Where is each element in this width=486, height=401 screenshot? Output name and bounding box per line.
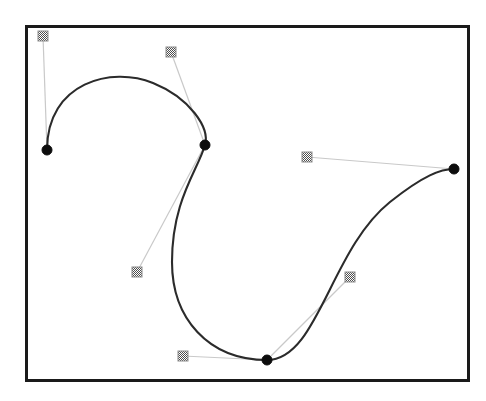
handle-line-3 [137,145,205,272]
control-1-handle[interactable]: Control 1 [38,31,48,41]
bezier-editor-window: Bezier spline with anchor points and con… [0,0,486,401]
anchor-2-point[interactable]: Anchor 2 [200,140,210,150]
anchor-1-point[interactable]: Anchor 1 [42,145,52,155]
anchor-points-group[interactable]: Anchor 1Anchor 2Anchor 3Anchor 4 [42,140,459,365]
control-points-group[interactable]: Control 1Control 2Control 3Control 4Cont… [38,31,355,361]
handle-lines-group [43,36,454,360]
control-4-handle[interactable]: Control 4 [178,351,188,361]
handle-line-2 [171,52,205,145]
anchor-3-point[interactable]: Anchor 3 [262,355,272,365]
handle-line-6 [307,157,454,169]
bezier-curve-path[interactable] [47,77,454,360]
control-3-handle[interactable]: Control 3 [132,267,142,277]
handle-line-1 [43,36,47,150]
control-2-handle[interactable]: Control 2 [166,47,176,57]
control-5-handle[interactable]: Control 5 [345,272,355,282]
curve-group[interactable] [47,77,454,360]
bezier-vector-layer[interactable]: Control 1Control 2Control 3Control 4Cont… [0,0,486,401]
anchor-4-point[interactable]: Anchor 4 [449,164,459,174]
control-6-handle[interactable]: Control 6 [302,152,312,162]
handle-line-5 [267,277,350,360]
